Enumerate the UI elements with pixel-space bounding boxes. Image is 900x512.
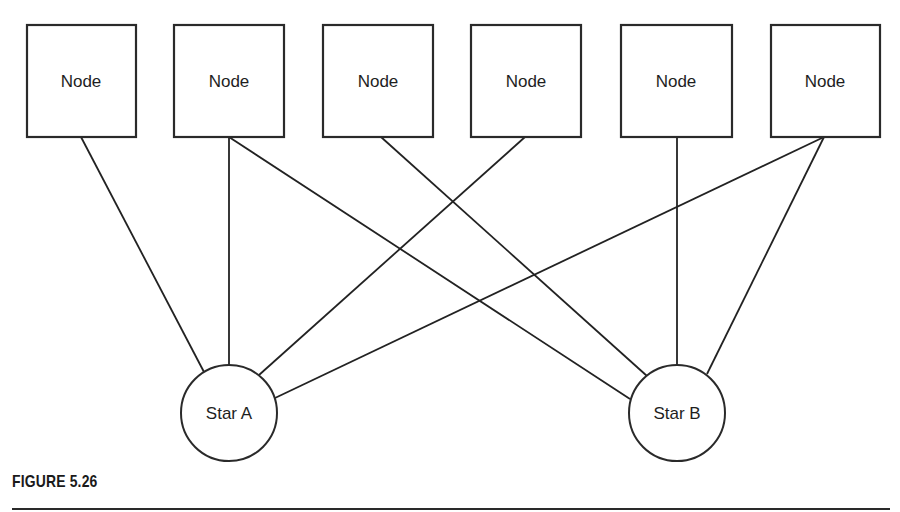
node-3: Node	[323, 25, 433, 137]
caption-divider	[12, 508, 890, 510]
edge-node-3-star-b	[381, 137, 647, 376]
node-2: Node	[174, 25, 284, 137]
node-6: Node	[771, 25, 880, 137]
node-row: Node Node Node Node Node Node	[27, 25, 880, 137]
star-label: Star B	[653, 404, 700, 423]
star-b: Star B	[629, 365, 725, 461]
node-label: Node	[61, 72, 102, 91]
node-label: Node	[506, 72, 547, 91]
node-label: Node	[358, 72, 399, 91]
edge-node-2-star-b	[229, 137, 630, 399]
figure-caption: FIGURE 5.26	[12, 472, 97, 492]
node-label: Node	[656, 72, 697, 91]
edge-node-6-star-b	[707, 137, 824, 374]
edge-node-1-star-a	[81, 137, 204, 372]
dual-star-topology-diagram: Node Node Node Node Node Node Star A Sta…	[0, 0, 900, 470]
edge-node-4-star-a	[259, 137, 525, 375]
node-label: Node	[805, 72, 846, 91]
node-1: Node	[27, 25, 136, 137]
star-a: Star A	[181, 365, 277, 461]
edge-node-6-star-a	[275, 137, 824, 398]
node-4: Node	[471, 25, 581, 137]
edges	[81, 137, 824, 399]
node-5: Node	[621, 25, 732, 137]
star-label: Star A	[206, 404, 253, 423]
node-label: Node	[209, 72, 250, 91]
